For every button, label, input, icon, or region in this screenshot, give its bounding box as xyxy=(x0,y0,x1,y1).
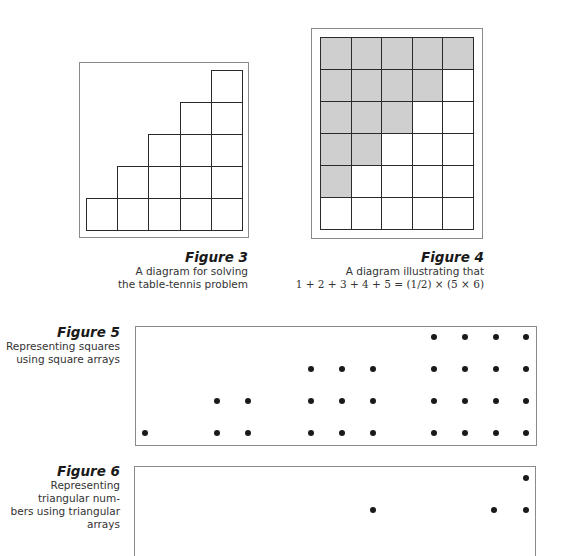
grid-cell xyxy=(351,197,383,230)
staircase-cell xyxy=(180,198,212,231)
figure-6-caption-line-1: Representing triangular num- xyxy=(0,479,120,505)
dot xyxy=(462,398,468,404)
grid-cell xyxy=(442,165,474,198)
grid-cell-shaded xyxy=(442,37,474,70)
figure-4-title: Figure 4 xyxy=(250,249,484,265)
grid-cell xyxy=(442,101,474,134)
grid-cell xyxy=(412,197,444,230)
figure-5-frame xyxy=(135,326,537,446)
dot xyxy=(214,398,220,404)
dot xyxy=(491,507,497,513)
figure-6-frame xyxy=(134,466,536,556)
grid-cell-shaded xyxy=(351,133,383,166)
grid-cell-shaded xyxy=(320,101,352,134)
dot xyxy=(142,430,148,436)
dot xyxy=(493,334,499,340)
staircase-cell xyxy=(211,198,243,231)
figure-3-title: Figure 3 xyxy=(60,249,248,265)
dot xyxy=(431,334,437,340)
grid-cell-shaded xyxy=(320,37,352,70)
figure-6-caption-line-2: bers using triangular arrays xyxy=(0,505,120,531)
figure-6-caption: Figure 6 Representing triangular num- be… xyxy=(0,463,120,531)
dot xyxy=(493,430,499,436)
staircase-cell xyxy=(148,198,180,231)
grid-cell-shaded xyxy=(320,133,352,166)
dot xyxy=(245,398,251,404)
figure-4-caption-line-1: A diagram illustrating that xyxy=(250,265,484,278)
grid-cell xyxy=(351,165,383,198)
dot xyxy=(339,398,345,404)
dot xyxy=(370,507,376,513)
figure-3-caption-line-1: A diagram for solving xyxy=(60,265,248,278)
dot xyxy=(370,430,376,436)
figure-3-caption-line-2: the table-tennis problem xyxy=(60,278,248,291)
grid-cell-shaded xyxy=(381,101,413,134)
dot xyxy=(339,430,345,436)
staircase-cell xyxy=(117,166,149,199)
figure-6-title: Figure 6 xyxy=(0,463,120,479)
dot xyxy=(308,430,314,436)
figure-5-title: Figure 5 xyxy=(0,324,120,340)
grid-cell xyxy=(442,133,474,166)
dot xyxy=(308,366,314,372)
dot xyxy=(308,398,314,404)
staircase-cell xyxy=(211,102,243,135)
staircase-cell xyxy=(211,166,243,199)
dot xyxy=(370,398,376,404)
grid-cell-shaded xyxy=(351,69,383,102)
dot xyxy=(431,398,437,404)
figure-3-caption: Figure 3 A diagram for solving the table… xyxy=(60,249,248,291)
grid-cell xyxy=(412,165,444,198)
grid-cell-shaded xyxy=(412,37,444,70)
dot xyxy=(339,366,345,372)
dot xyxy=(431,366,437,372)
dot xyxy=(462,366,468,372)
staircase-cell xyxy=(148,134,180,167)
staircase-cell xyxy=(180,166,212,199)
dot xyxy=(370,366,376,372)
grid-cell xyxy=(412,133,444,166)
dot xyxy=(523,475,529,481)
grid-cell-shaded xyxy=(351,101,383,134)
staircase-cell xyxy=(180,102,212,135)
dot xyxy=(493,398,499,404)
grid-cell xyxy=(442,69,474,102)
grid-cell xyxy=(381,133,413,166)
dot xyxy=(493,366,499,372)
staircase-cell xyxy=(117,198,149,231)
staircase-cell xyxy=(211,70,243,103)
figure-5-caption-line-2: using square arrays xyxy=(0,353,120,366)
grid-cell xyxy=(381,197,413,230)
figure-5-caption-line-1: Representing squares xyxy=(0,340,120,353)
grid-cell xyxy=(442,197,474,230)
grid-cell-shaded xyxy=(320,165,352,198)
grid-cell-shaded xyxy=(320,69,352,102)
dot xyxy=(431,430,437,436)
figure-5-caption: Figure 5 Representing squares using squa… xyxy=(0,324,120,366)
grid-cell-shaded xyxy=(351,37,383,70)
dot xyxy=(214,430,220,436)
dot xyxy=(462,430,468,436)
grid-cell xyxy=(412,101,444,134)
staircase-cell xyxy=(148,166,180,199)
staircase-cell xyxy=(180,134,212,167)
grid-cell-shaded xyxy=(381,69,413,102)
figure-4-equation: 1 + 2 + 3 + 4 + 5 = (1/2) × (5 × 6) xyxy=(250,278,484,291)
grid-cell-shaded xyxy=(381,37,413,70)
grid-cell xyxy=(320,197,352,230)
figure-4-caption: Figure 4 A diagram illustrating that 1 +… xyxy=(250,249,484,291)
staircase-cell xyxy=(211,134,243,167)
grid-cell-shaded xyxy=(412,69,444,102)
dot xyxy=(462,334,468,340)
dot xyxy=(245,430,251,436)
grid-cell xyxy=(381,165,413,198)
dot xyxy=(523,507,529,513)
staircase-cell xyxy=(86,198,118,231)
